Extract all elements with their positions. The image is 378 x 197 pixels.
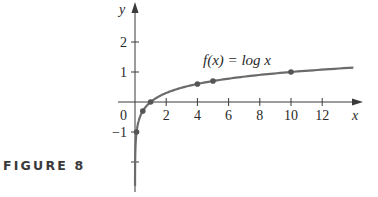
data-point [210,78,216,84]
y-tick-label: −1 [112,125,127,140]
origin-label: 0 [120,108,127,123]
x-tick-label: 8 [256,108,263,123]
data-point [195,81,201,87]
function-label: f(x) = log x [203,52,271,69]
data-point [148,99,154,105]
x-tick-label: 2 [163,108,170,123]
log-curve [135,68,353,186]
x-axis-label: x [351,108,359,123]
x-tick-label: 4 [194,108,201,123]
y-axis-label: y [117,2,126,17]
log-curve-path [135,68,353,186]
data-point [288,69,294,75]
x-axis-arrow-icon [352,99,363,106]
y-axis-arrow-icon [132,2,139,13]
data-point [134,129,140,135]
y-tick-label: 1 [120,65,127,80]
figure-caption: FIGURE 8 [3,158,85,173]
x-tick-label: 10 [284,108,298,123]
x-tick-label: 12 [315,108,329,123]
x-tick-label: 6 [225,108,232,123]
data-point [140,108,146,114]
axis-labels: 24681012−1120xy [112,2,359,140]
axes [118,2,363,192]
y-tick-label: 2 [120,35,127,50]
